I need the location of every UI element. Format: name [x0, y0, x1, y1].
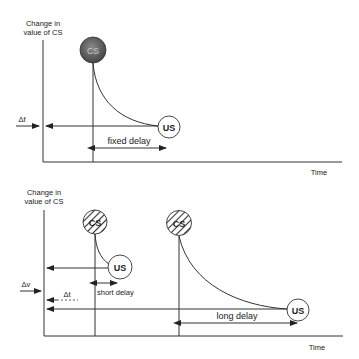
top-cs-label: CS [87, 46, 99, 56]
bottom-short-decay-curve [95, 234, 109, 264]
bottom-y-axis-label-line1: Change in [27, 188, 61, 197]
bottom-x-axis-label: Time [309, 343, 325, 352]
bottom-delta-v-label: Δv [22, 280, 31, 289]
bottom-cs2-stimulus: CS [167, 211, 192, 236]
bottom-delta-t-label: Δt [63, 290, 71, 299]
bottom-long-decay-curve [179, 236, 287, 309]
bottom-y-axis-label-line2: value of CS [25, 197, 64, 206]
bottom-cs1-label: CS [89, 218, 102, 228]
bottom-short-us-label: US [114, 263, 127, 273]
top-fixed-delay-label: fixed delay [107, 136, 151, 146]
top-us-label: US [163, 123, 176, 133]
bottom-cs2-label: CS [173, 219, 186, 229]
bottom-short-delay-label: short delay [97, 288, 134, 297]
bottom-long-us-label: US [292, 306, 305, 316]
bottom-short-us-stimulus: US [108, 255, 132, 279]
top-panel: Change in value of CS Time CS US Δf fixe… [16, 19, 342, 177]
top-y-axis-label-line1: Change in [26, 19, 60, 28]
bottom-long-us-stimulus: US [287, 299, 309, 321]
top-x-axis-label: Time [311, 168, 327, 177]
bottom-cs1-stimulus: CS [83, 210, 107, 234]
top-cs-stimulus: CS [80, 37, 106, 63]
top-us-stimulus: US [158, 116, 180, 138]
bottom-long-delay-label: long delay [216, 311, 258, 321]
bottom-panel: Change in value of CS Time CS US short d… [20, 188, 343, 352]
top-delta-f-label: Δf [18, 115, 26, 124]
top-y-axis-label-line2: value of CS [24, 28, 63, 37]
delay-conditioning-diagram: Change in value of CS Time CS US Δf fixe… [0, 0, 359, 359]
top-decay-curve [93, 63, 158, 126]
